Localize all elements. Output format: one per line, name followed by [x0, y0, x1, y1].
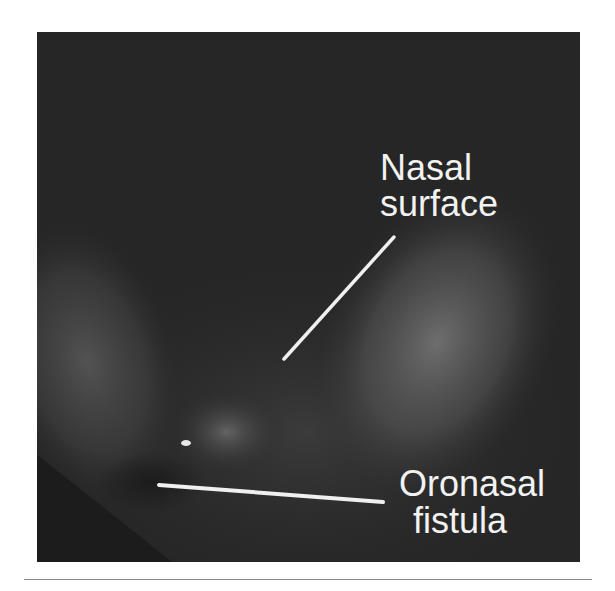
oronasal-fistula-label-line2: fistula — [413, 503, 507, 539]
nasal-surface-label-line2: surface — [380, 186, 498, 222]
oronasal-fistula-label-line1: Oronasal — [399, 466, 545, 502]
horizontal-divider — [24, 579, 592, 580]
specular-highlight — [181, 440, 191, 446]
endoscopic-photo: Nasal surface Oronasal fistula — [37, 32, 580, 562]
nasal-surface-label-line1: Nasal — [380, 150, 472, 186]
fistula-opening — [97, 452, 207, 512]
